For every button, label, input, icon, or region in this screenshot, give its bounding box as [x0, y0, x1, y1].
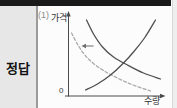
demand-shifted-curve [72, 33, 151, 91]
shift-arrow-head-icon [81, 44, 86, 49]
y-axis-arrowhead-icon [66, 11, 70, 17]
scanned-answer-page: 정답 (1) 가격 0 수량 [0, 0, 177, 108]
x-axis-arrowhead-icon [160, 94, 166, 98]
demand-original-curve [87, 20, 161, 79]
supply-demand-graph [0, 0, 177, 108]
curves-group [72, 20, 161, 91]
